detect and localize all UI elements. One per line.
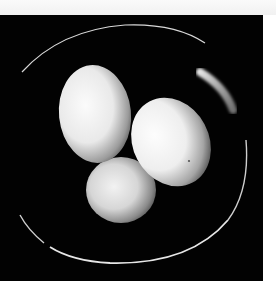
- page-bottom-margin: [0, 282, 276, 303]
- egg-speck: [188, 160, 190, 162]
- egg-photo: [0, 15, 263, 281]
- egg-photo-illustration: [0, 15, 263, 281]
- page-top-margin: [0, 0, 276, 15]
